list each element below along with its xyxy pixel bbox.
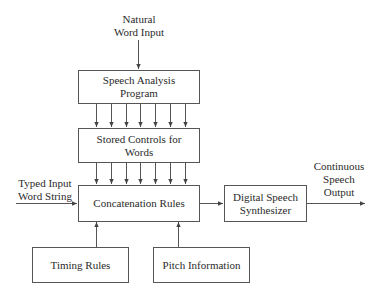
typed-input-label: Typed Input Word String [12,177,78,203]
timing-rules-box: Timing Rules [32,247,129,283]
stored-controls-box: Stored Controls for Words [78,128,200,163]
concatenation-rules-box: Concatenation Rules [78,185,200,222]
arrows-analysis-to-stored [97,103,186,127]
speech-synthesis-block-diagram: Natural Word Input Speech Analysis Progr… [0,0,376,296]
arrows-stored-to-concatenation [97,162,186,184]
digital-speech-synthesizer-box: Digital Speech Synthesizer [224,185,307,222]
natural-word-input-label: Natural Word Input [98,13,180,39]
continuous-speech-output-label: Continuous Speech Output [306,160,372,199]
speech-analysis-program-box: Speech Analysis Program [78,70,200,104]
pitch-information-box: Pitch Information [153,247,250,283]
